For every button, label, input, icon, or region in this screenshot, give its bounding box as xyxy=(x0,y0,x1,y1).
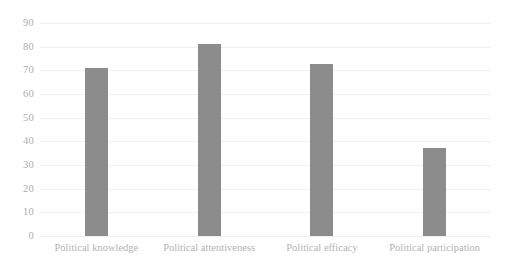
y-tick-label: 40 xyxy=(0,136,34,147)
y-tick-label: 10 xyxy=(0,207,34,218)
x-label-political-efficacy: Political efficacy xyxy=(286,241,357,255)
bar-political-knowledge xyxy=(85,68,108,236)
bar-political-efficacy xyxy=(310,64,333,236)
bar-series xyxy=(40,23,491,236)
y-tick-label: 60 xyxy=(0,89,34,100)
axis-baseline xyxy=(40,236,491,237)
y-axis-tick-labels: 90 80 70 60 50 40 30 20 10 0 xyxy=(0,23,34,236)
y-tick-label: 70 xyxy=(0,65,34,76)
y-tick-label: 50 xyxy=(0,113,34,124)
bar-political-attentiveness xyxy=(198,44,221,236)
bar-political-participation xyxy=(423,148,446,236)
y-tick-label: 20 xyxy=(0,184,34,195)
bar-chart: 90 80 70 60 50 40 30 20 10 0 Political k… xyxy=(0,0,508,273)
y-tick-label: 90 xyxy=(0,18,34,29)
y-tick-label: 80 xyxy=(0,42,34,53)
y-tick-label: 30 xyxy=(0,160,34,171)
x-axis-category-labels: Political knowledge Political attentiven… xyxy=(40,241,491,263)
y-tick-label: 0 xyxy=(0,231,34,242)
x-label-political-attentiveness: Political attentiveness xyxy=(163,241,255,255)
x-label-political-participation: Political participation xyxy=(389,241,480,255)
x-label-political-knowledge: Political knowledge xyxy=(55,241,139,255)
